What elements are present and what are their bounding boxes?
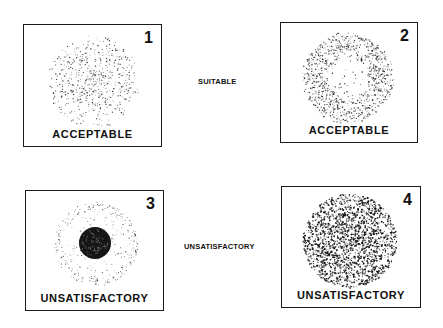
panel-caption: UNSATISFACTORY: [282, 289, 420, 301]
panel-caption: UNSATISFACTORY: [26, 292, 163, 304]
row-label-unsatisfactory: UNSATISFACTORY: [184, 242, 255, 251]
panel-number: 2: [400, 27, 409, 45]
row-label-suitable: SUITABLE: [198, 77, 237, 86]
panel-2: 2 ACCEPTABLE: [280, 22, 418, 143]
panel-number: 3: [146, 195, 155, 213]
panel-4: 4 UNSATISFACTORY: [281, 186, 421, 308]
panel-caption: ACCEPTABLE: [281, 124, 417, 136]
panel-3: 3 UNSATISFACTORY: [25, 190, 164, 311]
panel-number: 1: [144, 29, 153, 47]
panel-1: 1 ACCEPTABLE: [23, 24, 162, 147]
panel-caption: ACCEPTABLE: [24, 128, 161, 140]
panel-number: 4: [403, 191, 412, 209]
